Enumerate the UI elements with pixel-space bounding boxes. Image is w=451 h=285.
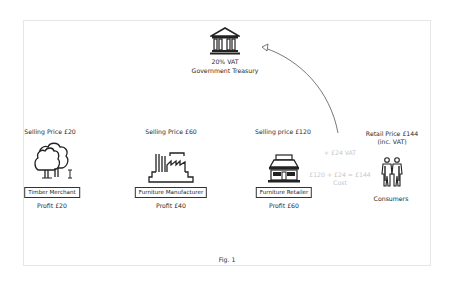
consumers-label: Consumers bbox=[374, 195, 409, 203]
manufacturer-profit: Profit £40 bbox=[156, 202, 186, 210]
factory-icon bbox=[148, 152, 194, 188]
people-icon bbox=[380, 157, 404, 191]
timber-selling-price: Selling Price £20 bbox=[24, 128, 76, 136]
furniture-manufacturer-label: Furniture Manufacturer bbox=[135, 187, 207, 198]
timber-profit: Profit £20 bbox=[37, 202, 67, 210]
manufacturer-selling-price: Selling Price £60 bbox=[145, 128, 197, 136]
tree-icon bbox=[34, 140, 74, 186]
retailer-selling-price: Selling price £120 bbox=[255, 128, 311, 136]
retail-price-vat-note: (inc. VAT) bbox=[377, 138, 406, 146]
shop-icon bbox=[266, 154, 302, 188]
timber-merchant-label: Timber Merchant bbox=[24, 187, 80, 198]
furniture-retailer-label: Furniture Retailer bbox=[256, 187, 312, 198]
vat-note: + £24 VAT bbox=[324, 149, 356, 157]
retailer-profit: Profit £60 bbox=[269, 202, 299, 210]
cost-label: Cost bbox=[333, 179, 347, 187]
retail-price: Retail Price £144 bbox=[366, 130, 418, 138]
cost-equation: £120 + £24 = £144 bbox=[309, 171, 371, 179]
figure-caption: Fig. 1 bbox=[219, 256, 236, 264]
